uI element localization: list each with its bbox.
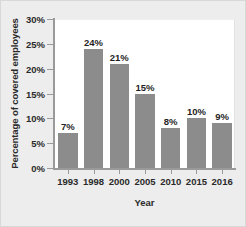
bar-slot: 8% xyxy=(158,19,184,168)
x-axis-tick xyxy=(145,170,146,174)
y-axis-tick xyxy=(47,19,53,20)
bar-series: 7%24%21%15%8%10%9% xyxy=(55,19,235,168)
bar-value-label: 7% xyxy=(55,121,81,132)
bar xyxy=(58,133,78,168)
y-axis-tick xyxy=(47,143,53,144)
y-axis-tick xyxy=(47,44,53,45)
x-axis-tick-label: 2000 xyxy=(109,176,130,187)
x-axis-tick xyxy=(171,170,172,174)
x-axis-tick xyxy=(94,170,95,174)
x-axis-tick xyxy=(68,170,69,174)
bar xyxy=(135,94,155,169)
x-axis-tick-label: 2005 xyxy=(134,176,155,187)
chart-screenshot: Percentage of covered employees 0%5%10%1… xyxy=(0,0,246,227)
bar-value-label: 10% xyxy=(184,106,210,117)
figure-frame: Percentage of covered employees 0%5%10%1… xyxy=(1,1,245,226)
bar xyxy=(187,118,207,168)
y-axis-tick-label: 25% xyxy=(15,38,45,49)
y-axis-tick-label: 10% xyxy=(15,113,45,124)
x-axis-tick-label: 1998 xyxy=(83,176,104,187)
bar-value-label: 15% xyxy=(132,82,158,93)
bar xyxy=(212,123,232,168)
bar-value-label: 8% xyxy=(158,116,184,127)
x-axis-tick-label: 2015 xyxy=(186,176,207,187)
bar xyxy=(84,49,104,168)
x-axis-title: Year xyxy=(54,197,235,208)
bar-value-label: 21% xyxy=(106,52,132,63)
x-axis-tick-label: 2010 xyxy=(160,176,181,187)
bar-slot: 9% xyxy=(209,19,235,168)
y-axis-tick-label: 15% xyxy=(15,88,45,99)
bar-slot: 10% xyxy=(184,19,210,168)
bar xyxy=(110,64,130,168)
y-axis-tick xyxy=(47,69,53,70)
bar-slot: 24% xyxy=(81,19,107,168)
x-axis-tick-label: 1993 xyxy=(57,176,78,187)
y-axis-tick-label: 30% xyxy=(15,14,45,25)
x-axis-tick xyxy=(196,170,197,174)
x-axis-tick xyxy=(119,170,120,174)
x-axis-tick-label: 2016 xyxy=(212,176,233,187)
y-axis-tick xyxy=(47,118,53,119)
y-axis-tick-label: 5% xyxy=(15,138,45,149)
bar-slot: 7% xyxy=(55,19,81,168)
bar xyxy=(161,128,181,168)
y-axis-tick-label: 0% xyxy=(15,163,45,174)
bar-value-label: 9% xyxy=(209,111,235,122)
bar-value-label: 24% xyxy=(81,37,107,48)
y-axis-tick-label: 20% xyxy=(15,63,45,74)
y-axis-tick xyxy=(47,168,53,169)
x-axis-tick xyxy=(222,170,223,174)
bar-slot: 15% xyxy=(132,19,158,168)
bar-slot: 21% xyxy=(106,19,132,168)
y-axis-tick xyxy=(47,94,53,95)
